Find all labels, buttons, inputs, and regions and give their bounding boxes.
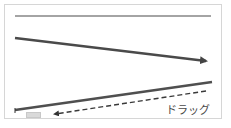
arrow-right [15, 38, 206, 61]
drag-label: ドラッグ [166, 101, 210, 117]
handle-chip [26, 112, 41, 118]
